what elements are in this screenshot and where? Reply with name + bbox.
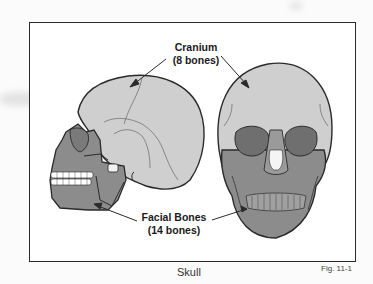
lateral-skull: [50, 75, 204, 210]
facial-bones-count: (14 bones): [132, 224, 216, 237]
textbook-figure: Cranium (8 bones) Facial Bones (14 bones…: [0, 0, 373, 284]
frontal-skull: [218, 63, 332, 238]
figure-number: Fig. 11-1: [321, 264, 352, 273]
cranium-count: (8 bones): [160, 54, 232, 67]
facial-bones-name: Facial Bones: [132, 211, 216, 224]
cranium-label: Cranium (8 bones): [160, 41, 232, 67]
cranium-name: Cranium: [160, 41, 232, 54]
facial-bones-label: Facial Bones (14 bones): [132, 211, 216, 237]
figure-caption: Skull: [177, 266, 201, 278]
